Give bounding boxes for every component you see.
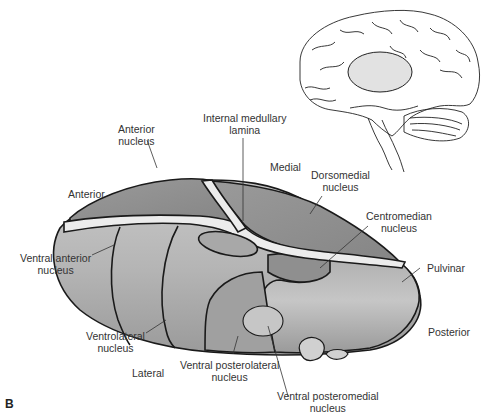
label-internal-medullary-lamina: Internal medullary lamina <box>203 112 286 136</box>
label-line: Anterior <box>118 123 155 135</box>
label-line: nucleus <box>311 181 370 193</box>
label-line: nucleus <box>20 264 91 276</box>
label-line: Ventral anterior <box>20 252 91 264</box>
thalamus-highlight <box>348 52 412 92</box>
label-line: nucleus <box>118 135 155 147</box>
label-centromedian-nucleus: Centromedian nucleus <box>366 210 432 234</box>
label-line: Dorsomedial <box>311 169 370 181</box>
label-lateral: Lateral <box>132 367 164 379</box>
label-ventral-anterior-nucleus: Ventral anterior nucleus <box>20 252 91 276</box>
label-ventral-posteromedial-nucleus: Ventral posteromedial nucleus <box>277 390 379 414</box>
label-line: Ventral posterolateral <box>180 359 279 371</box>
label-line: nucleus <box>86 342 145 354</box>
label-ventral-posterolateral-nucleus: Ventral posterolateral nucleus <box>180 359 279 383</box>
label-line: nucleus <box>180 371 279 383</box>
panel-letter: B <box>5 397 14 411</box>
label-medial: Medial <box>270 161 301 173</box>
label-anterior: Anterior <box>68 188 105 200</box>
label-posterior: Posterior <box>428 326 470 338</box>
label-pulvinar: Pulvinar <box>427 262 465 274</box>
lobule <box>299 338 324 361</box>
label-line: Ventrolateral <box>86 330 145 342</box>
label-anterior-nucleus: Anterior nucleus <box>118 123 155 147</box>
label-dorsomedial-nucleus: Dorsomedial nucleus <box>311 169 370 193</box>
label-line: lamina <box>203 124 286 136</box>
label-line: Centromedian <box>366 210 432 222</box>
thalamus-diagram <box>0 0 485 417</box>
label-line: Internal medullary <box>203 112 286 124</box>
label-line: nucleus <box>277 402 379 414</box>
label-line: Ventral posteromedial <box>277 390 379 402</box>
label-ventrolateral-nucleus: Ventrolateral nucleus <box>86 330 145 354</box>
ventral-posteromedial-nucleus <box>243 306 283 336</box>
label-line: nucleus <box>366 222 432 234</box>
